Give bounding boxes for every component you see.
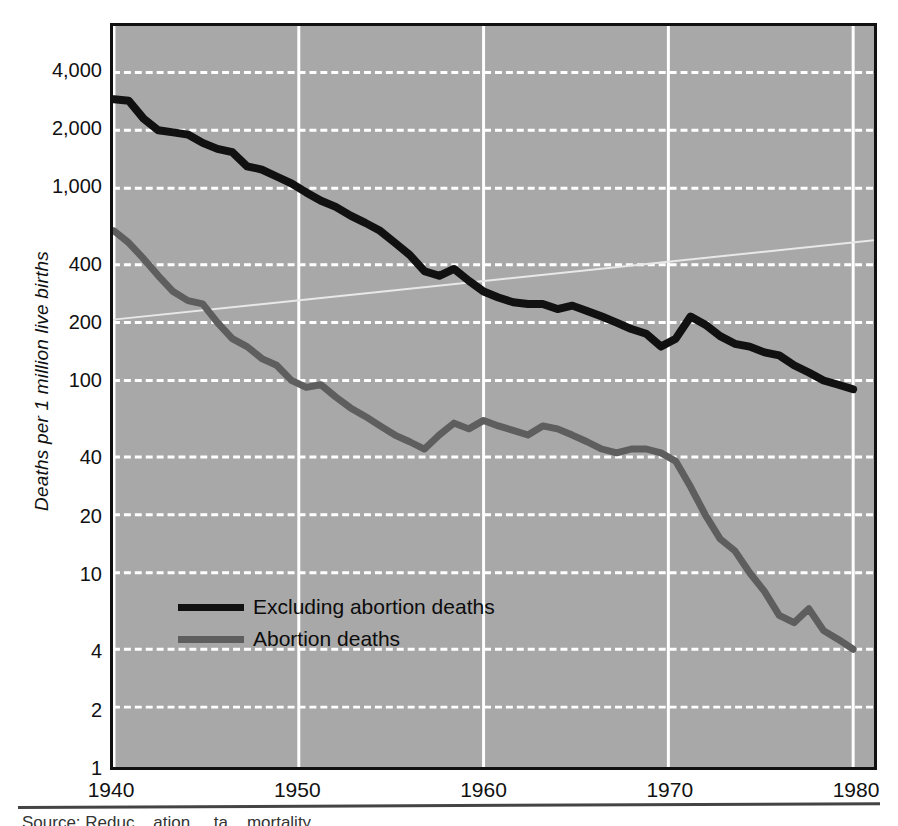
plot-svg — [113, 26, 874, 767]
y-tick-label: 4,000 — [28, 58, 102, 81]
legend-item: Excluding abortion deaths — [178, 591, 578, 623]
legend: Excluding abortion deathsAbortion deaths — [178, 591, 578, 655]
y-tick-label: 1,000 — [28, 175, 102, 198]
scan-artifact-line — [113, 240, 874, 319]
x-tick-label: 1970 — [646, 778, 693, 802]
x-tick-label: 1960 — [460, 778, 507, 802]
legend-swatch — [178, 604, 244, 611]
legend-label: Abortion deaths — [253, 627, 400, 651]
gridlines — [113, 26, 874, 767]
y-tick-label: 20 — [28, 504, 102, 527]
y-tick-label: 2 — [28, 698, 102, 721]
y-tick-label: 400 — [28, 252, 102, 275]
y-tick-label: 40 — [28, 446, 102, 469]
y-tick-label: 4 — [28, 640, 102, 663]
y-axis-tick-labels: 4,0002,0001,000400200100402010421 — [22, 0, 102, 826]
x-tick-label: 1950 — [274, 778, 321, 802]
y-tick-label: 100 — [28, 369, 102, 392]
legend-swatch — [178, 636, 244, 643]
y-tick-label: 200 — [28, 310, 102, 333]
y-tick-label: 10 — [28, 563, 102, 586]
legend-item: Abortion deaths — [178, 623, 578, 655]
legend-label: Excluding abortion deaths — [253, 595, 495, 619]
source-note: Source: Reduc... ation ... ta... mortali… — [22, 813, 311, 826]
y-tick-label: 2,000 — [28, 117, 102, 140]
x-tick-label: 1980 — [833, 778, 880, 802]
y-tick-label: 1 — [28, 757, 102, 780]
x-tick-label: 1940 — [88, 778, 135, 802]
footer-divider — [18, 802, 880, 809]
figure-container: Deaths per 1 million live births 4,0002,… — [0, 0, 898, 826]
plot-area: Excluding abortion deathsAbortion deaths — [110, 23, 877, 770]
